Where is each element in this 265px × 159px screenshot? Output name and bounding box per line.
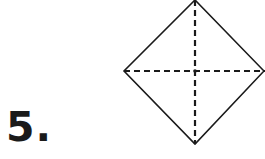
center-point [193, 69, 197, 73]
diamond-figure [0, 0, 265, 159]
